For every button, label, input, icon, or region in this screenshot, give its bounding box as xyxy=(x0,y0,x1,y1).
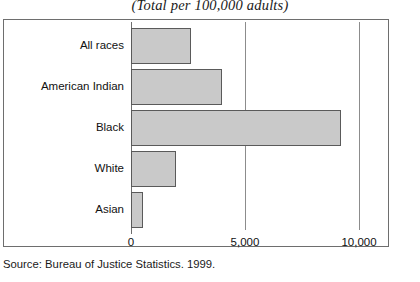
source-note: Source: Bureau of Justice Statistics. 19… xyxy=(3,258,215,270)
chart-frame: All racesAmerican IndianBlackWhiteAsian0… xyxy=(3,19,389,247)
category-label-all-races: All races xyxy=(4,39,124,51)
category-label-black: Black xyxy=(4,121,124,133)
category-label-asian: Asian xyxy=(4,203,124,215)
category-label-american-indian: American Indian xyxy=(4,80,124,92)
category-label-white: White xyxy=(4,162,124,174)
gridline-10000 xyxy=(359,22,360,230)
bar-all-races xyxy=(131,28,191,64)
bar-black xyxy=(131,110,341,146)
plot-area: All racesAmerican IndianBlackWhiteAsian0… xyxy=(4,20,390,248)
chart-title: (Total per 100,000 adults) xyxy=(0,0,420,14)
x-tick-label-0: 0 xyxy=(128,236,134,248)
x-tick-label-10000: 10,000 xyxy=(341,236,376,248)
bar-white xyxy=(131,151,176,187)
x-tick-label-5000: 5,000 xyxy=(231,236,260,248)
bar-asian xyxy=(131,192,143,228)
bar-american-indian xyxy=(131,69,222,105)
